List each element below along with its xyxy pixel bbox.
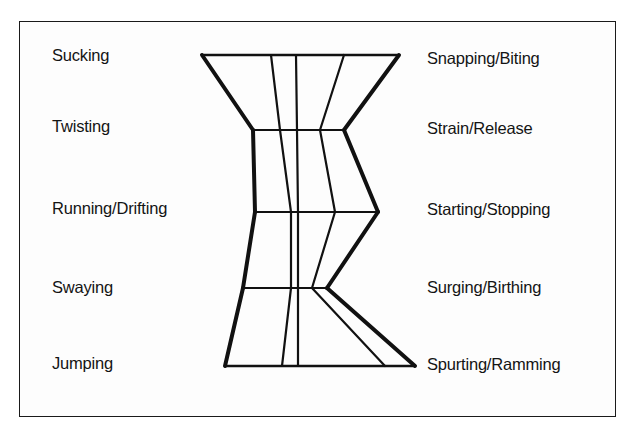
inner-strand <box>296 55 297 130</box>
left-outer-edge <box>225 288 243 366</box>
inner-strand <box>312 212 335 288</box>
right-outer-edge <box>344 55 399 130</box>
right-outer-edge <box>327 212 378 288</box>
inner-strand <box>282 288 291 366</box>
inner-strand <box>312 288 385 366</box>
left-outer-edge <box>202 55 253 130</box>
left-outer-edge <box>253 130 255 212</box>
inner-strand <box>271 55 280 130</box>
inner-strand <box>297 130 298 212</box>
right-outer-edge <box>327 288 415 366</box>
hourglass-lattice-diagram <box>0 0 634 428</box>
outline-strokes <box>202 55 415 366</box>
inner-strand <box>320 55 344 130</box>
inner-strand <box>280 130 291 212</box>
right-outer-edge <box>344 130 378 212</box>
inner-strand <box>320 130 335 212</box>
left-outer-edge <box>243 212 255 288</box>
